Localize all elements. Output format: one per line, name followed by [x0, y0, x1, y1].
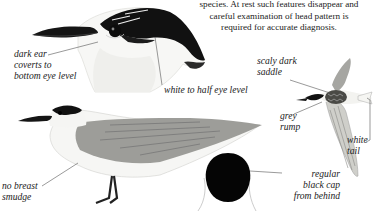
cap-line-1: regular	[282, 168, 340, 179]
white-level-text: white to half eye level	[164, 84, 248, 95]
cap-label: regular black cap from behind	[282, 168, 340, 201]
ear-coverts-line-3: bottom eye level	[14, 70, 76, 81]
saddle-line-2: saddle	[257, 66, 297, 77]
cap-from-behind-illustration	[198, 153, 256, 211]
breast-line-1: no breast	[2, 180, 38, 191]
breast-line-2: smudge	[2, 191, 38, 202]
saddle-leader	[290, 80, 330, 93]
ear-coverts-line-1: dark ear	[14, 48, 76, 59]
rump-line-1: grey	[280, 110, 300, 121]
tail-line-2: tail	[347, 145, 368, 156]
cap-line-2: black cap	[282, 179, 340, 190]
breast-leader	[42, 163, 78, 186]
rump-label: grey rump	[280, 110, 300, 132]
cap-leader	[250, 171, 282, 173]
tail-label: white tail	[347, 134, 368, 156]
saddle-label: scaly dark saddle	[257, 55, 297, 77]
rump-line-2: rump	[280, 121, 300, 132]
white-level-label: white to half eye level	[164, 84, 248, 95]
cap-line-3: from behind	[282, 190, 340, 201]
tail-line-1: white	[347, 134, 368, 145]
flying-bird-illustration	[296, 58, 372, 176]
breast-label: no breast smudge	[2, 180, 38, 202]
field-guide-page: species. At rest such features disappear…	[0, 0, 376, 211]
ear-coverts-line-2: coverts to	[14, 59, 76, 70]
ear-coverts-label: dark ear coverts to bottom eye level	[14, 48, 76, 81]
saddle-line-1: scaly dark	[257, 55, 297, 66]
